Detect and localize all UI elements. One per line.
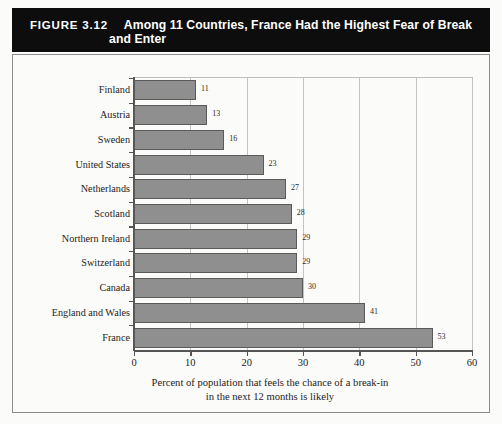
bar-value-label: 53 — [438, 332, 446, 341]
bar-value-label: 30 — [308, 282, 316, 291]
figure-container: FIGURE 3.12 Among 11 Countries, France H… — [0, 0, 502, 424]
bar-row: 29 — [134, 253, 472, 273]
x-axis-caption-line-1: Percent of population that feels the cha… — [60, 376, 480, 390]
y-axis-tick — [129, 325, 134, 326]
x-gridline — [472, 78, 473, 350]
figure-title-banner: FIGURE 3.12 Among 11 Countries, France H… — [12, 8, 490, 52]
bar-row: 27 — [134, 179, 472, 199]
category-label-united-states: United States — [10, 159, 130, 170]
category-label-france: France — [10, 332, 130, 343]
x-axis-tick-label: 10 — [170, 357, 210, 368]
figure-number-label: FIGURE 3.12 — [30, 19, 108, 31]
y-axis-tick — [129, 78, 134, 79]
bar-value-label: 16 — [229, 134, 237, 143]
bar-row: 23 — [134, 155, 472, 175]
bar-finland[interactable] — [134, 80, 196, 100]
y-axis-tick — [129, 103, 134, 104]
x-axis-tick — [359, 350, 360, 356]
category-label-england-and-wales: England and Wales — [10, 307, 130, 318]
category-label-finland: Finland — [10, 84, 130, 95]
y-axis-tick — [129, 251, 134, 252]
bar-row: 29 — [134, 229, 472, 249]
x-axis-tick — [190, 350, 191, 356]
y-axis-tick — [129, 276, 134, 277]
y-axis-tick — [129, 301, 134, 302]
bar-value-label: 11 — [201, 84, 209, 93]
bar-row: 28 — [134, 204, 472, 224]
bar-row: 13 — [134, 105, 472, 125]
category-label-sweden: Sweden — [10, 134, 130, 145]
x-axis-caption-line-2: in the next 12 months is likely — [60, 390, 480, 404]
bar-canada[interactable] — [134, 278, 303, 298]
bar-scotland[interactable] — [134, 204, 292, 224]
x-axis-tick — [416, 350, 417, 356]
bar-value-label: 41 — [370, 307, 378, 316]
bar-netherlands[interactable] — [134, 179, 286, 199]
bar-switzerland[interactable] — [134, 253, 297, 273]
bar-value-label: 29 — [302, 257, 310, 266]
x-axis-tick-label: 30 — [283, 357, 323, 368]
bar-england-and-wales[interactable] — [134, 303, 365, 323]
bar-row: 16 — [134, 130, 472, 150]
bar-france[interactable] — [134, 328, 433, 348]
y-axis-tick — [129, 177, 134, 178]
bar-row: 41 — [134, 303, 472, 323]
x-axis-tick — [303, 350, 304, 356]
bar-value-label: 13 — [212, 109, 220, 118]
x-axis-tick — [247, 350, 248, 356]
y-axis-tick — [129, 226, 134, 227]
x-axis-tick-label: 60 — [452, 357, 492, 368]
figure-title-text-line-1: Among 11 Countries, France Had the Highe… — [124, 18, 472, 32]
category-label-switzerland: Switzerland — [10, 257, 130, 268]
y-axis-tick — [129, 127, 134, 128]
chart-plot-area: 1113162327282929304153 — [134, 78, 472, 350]
bar-united-states[interactable] — [134, 155, 264, 175]
category-label-canada: Canada — [10, 282, 130, 293]
bar-row: 53 — [134, 328, 472, 348]
category-label-netherlands: Netherlands — [10, 183, 130, 194]
bar-austria[interactable] — [134, 105, 207, 125]
x-axis-tick — [472, 350, 473, 356]
x-axis-tick-label: 50 — [396, 357, 436, 368]
bar-northern-ireland[interactable] — [134, 229, 297, 249]
y-axis-tick — [129, 202, 134, 203]
figure-title-line-1: FIGURE 3.12 Among 11 Countries, France H… — [30, 15, 472, 33]
category-label-austria: Austria — [10, 109, 130, 120]
bar-value-label: 27 — [291, 183, 299, 192]
bar-row: 11 — [134, 80, 472, 100]
category-label-scotland: Scotland — [10, 208, 130, 219]
x-axis-tick-label: 40 — [339, 357, 379, 368]
bar-value-label: 29 — [302, 233, 310, 242]
bar-value-label: 23 — [269, 159, 277, 168]
x-axis-caption: Percent of population that feels the cha… — [60, 376, 480, 404]
x-axis-tick-label: 20 — [227, 357, 267, 368]
x-axis-tick-label: 0 — [114, 357, 154, 368]
x-axis-tick — [134, 350, 135, 356]
bar-sweden[interactable] — [134, 130, 224, 150]
y-axis-tick — [129, 152, 134, 153]
bar-row: 30 — [134, 278, 472, 298]
figure-title-text-line-2: and Enter — [109, 32, 166, 46]
bar-value-label: 28 — [297, 208, 305, 217]
category-label-northern-ireland: Northern Ireland — [10, 233, 130, 244]
